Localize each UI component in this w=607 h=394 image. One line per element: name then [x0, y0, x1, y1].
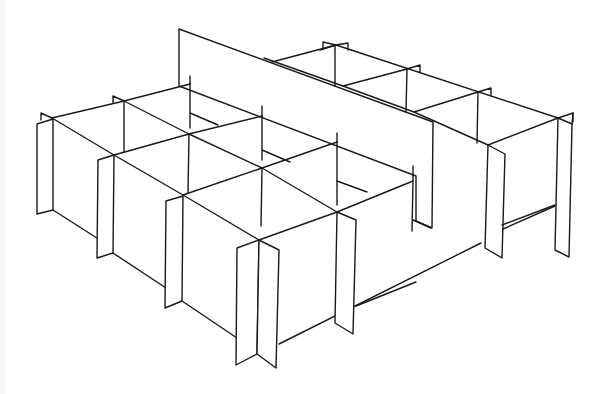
tall-center-panel [179, 29, 433, 228]
grid-divider-drawing [0, 0, 607, 394]
